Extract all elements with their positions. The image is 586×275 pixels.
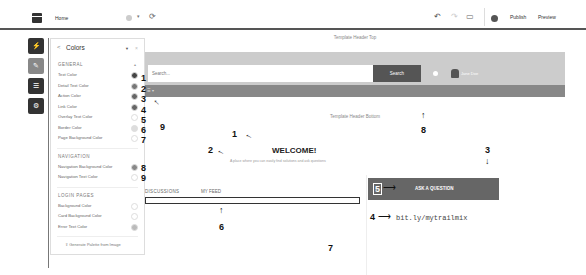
color-label: Overlay Text Color xyxy=(58,114,92,119)
annotation-2: 2 xyxy=(141,84,146,94)
arrow-icon: ↑ xyxy=(219,205,224,215)
color-label: Navigation Background Color xyxy=(58,164,112,169)
color-row[interactable]: Page Background Color xyxy=(51,133,144,144)
annotation-9-callout: 9 xyxy=(160,122,165,132)
search-input[interactable]: Search... xyxy=(148,65,373,82)
rail-divider xyxy=(48,38,49,268)
color-swatch[interactable] xyxy=(131,104,138,111)
color-row[interactable]: Error Text Color xyxy=(51,222,144,233)
section-login: LOGIN PAGES xyxy=(51,193,144,198)
feed-outline xyxy=(145,197,360,204)
divider xyxy=(57,148,138,149)
device-preview-icon[interactable]: ▭ xyxy=(466,12,474,21)
left-rail: ⚡ ✎ ☰ ⚙ xyxy=(28,38,46,118)
arrow-icon: ⟶ xyxy=(378,211,391,221)
page-name: Home xyxy=(55,15,68,21)
color-row[interactable]: Overlay Text Color xyxy=(51,112,144,123)
refresh-icon[interactable]: ⟳ xyxy=(149,12,156,21)
color-label: Page Background Color xyxy=(58,135,102,140)
arrow-icon: ↑ xyxy=(421,110,426,120)
annotation-6: 6 xyxy=(141,125,146,135)
color-row[interactable]: Action Color xyxy=(51,91,144,102)
annotation-2-callout: 2 xyxy=(208,145,213,155)
section-label: NAVIGATION xyxy=(58,154,90,159)
avatar[interactable] xyxy=(451,69,459,78)
ask-question-label: ASK A QUESTION xyxy=(415,186,453,191)
undo-icon[interactable]: ↶ xyxy=(434,12,441,21)
user-name[interactable]: Jane Doe xyxy=(461,71,478,76)
page-settings-icon[interactable] xyxy=(126,15,132,21)
color-swatch[interactable] xyxy=(131,203,138,210)
app-menu-icon[interactable] xyxy=(32,13,42,23)
tab-discussions[interactable]: DISCUSSIONS xyxy=(145,189,179,194)
page-icon[interactable]: ☰ xyxy=(28,78,44,94)
preview-button[interactable]: Preview xyxy=(538,14,556,20)
page-selector[interactable]: Home xyxy=(52,12,132,25)
generate-palette-link[interactable]: ⇪ Generate Palette from Image xyxy=(51,242,144,247)
chevron-down-icon[interactable]: ▼ xyxy=(125,46,129,51)
chevron-up-icon[interactable]: ▴ xyxy=(134,62,137,67)
color-swatch[interactable] xyxy=(131,83,138,90)
close-icon[interactable]: × xyxy=(135,45,138,51)
color-swatch[interactable] xyxy=(131,174,138,181)
color-label: Error Text Color xyxy=(58,224,87,229)
divider xyxy=(57,187,138,188)
lightning-icon[interactable]: ⚡ xyxy=(28,38,44,54)
navigation-menu xyxy=(145,85,565,97)
color-swatch[interactable] xyxy=(131,125,138,132)
help-icon[interactable] xyxy=(491,15,498,22)
column-divider xyxy=(366,175,367,275)
builder-toolbar: Home ▾ ⟳ ↶ ↷ ▭ Publish Preview xyxy=(0,0,586,30)
color-swatch[interactable] xyxy=(131,114,138,121)
section-label: LOGIN PAGES xyxy=(58,193,94,198)
color-row[interactable]: Card Background Color xyxy=(51,211,144,222)
welcome-heading: WELCOME! xyxy=(272,146,392,155)
annotation-7-callout: 7 xyxy=(328,243,333,253)
color-row[interactable]: Navigation Background Color xyxy=(51,162,144,173)
section-general[interactable]: GENERAL▴ xyxy=(51,62,144,67)
annotation-5: 5 xyxy=(141,115,146,125)
color-row[interactable]: Text Color xyxy=(51,70,144,81)
annotation-3-callout: 3 xyxy=(485,145,490,155)
tab-my-feed[interactable]: MY FEED xyxy=(201,189,221,194)
color-swatch[interactable] xyxy=(131,93,138,100)
annotation-9: 9 xyxy=(141,173,146,183)
annotation-5-callout: 5 xyxy=(373,183,382,195)
colors-panel: < Colors ▼ × GENERAL▴ Text ColorDetail T… xyxy=(50,38,145,255)
publish-button[interactable]: Publish xyxy=(510,14,526,20)
annotation-3: 3 xyxy=(141,94,146,104)
redo-icon[interactable]: ↷ xyxy=(451,12,458,21)
template-header-top: Template Header Top xyxy=(145,35,565,40)
annotation-1-callout: 1 xyxy=(232,129,237,139)
template-header-bottom: Template Header Bottom xyxy=(145,114,565,119)
back-icon[interactable]: < xyxy=(57,44,61,50)
color-swatch[interactable] xyxy=(131,72,138,79)
color-swatch[interactable] xyxy=(131,213,138,220)
color-row[interactable]: Detail Text Color xyxy=(51,81,144,92)
color-label: Card Background Color xyxy=(58,213,102,218)
chevron-down-icon[interactable]: ▾ xyxy=(137,13,140,19)
toolbar-divider xyxy=(484,8,485,26)
color-row[interactable]: Border Color xyxy=(51,123,144,134)
gear-icon[interactable]: ⚙ xyxy=(28,98,44,114)
color-swatch[interactable] xyxy=(131,135,138,142)
annotation-link: bit.ly/mytrailmix xyxy=(396,214,467,222)
notification-icon[interactable] xyxy=(433,71,438,76)
search-button[interactable]: Search xyxy=(373,65,421,82)
color-label: Text Color xyxy=(58,72,77,77)
color-swatch[interactable] xyxy=(131,224,138,231)
color-label: Link Color xyxy=(58,104,77,109)
color-label: Background Color xyxy=(58,203,92,208)
color-row[interactable]: Background Color xyxy=(51,201,144,212)
pencil-icon[interactable]: ✎ xyxy=(28,58,44,74)
color-swatch[interactable] xyxy=(131,164,138,171)
divider xyxy=(57,236,138,237)
color-row[interactable]: Link Color xyxy=(51,102,144,113)
color-label: Navigation Text Color xyxy=(58,174,98,179)
annotation-1: 1 xyxy=(141,73,146,83)
annotation-7: 7 xyxy=(141,135,146,145)
panel-title: Colors xyxy=(66,44,85,51)
annotation-6-callout: 6 xyxy=(219,222,224,232)
menu-toggle-icon[interactable]: ☰ ▾ xyxy=(147,88,154,93)
color-row[interactable]: Navigation Text Color xyxy=(51,172,144,183)
